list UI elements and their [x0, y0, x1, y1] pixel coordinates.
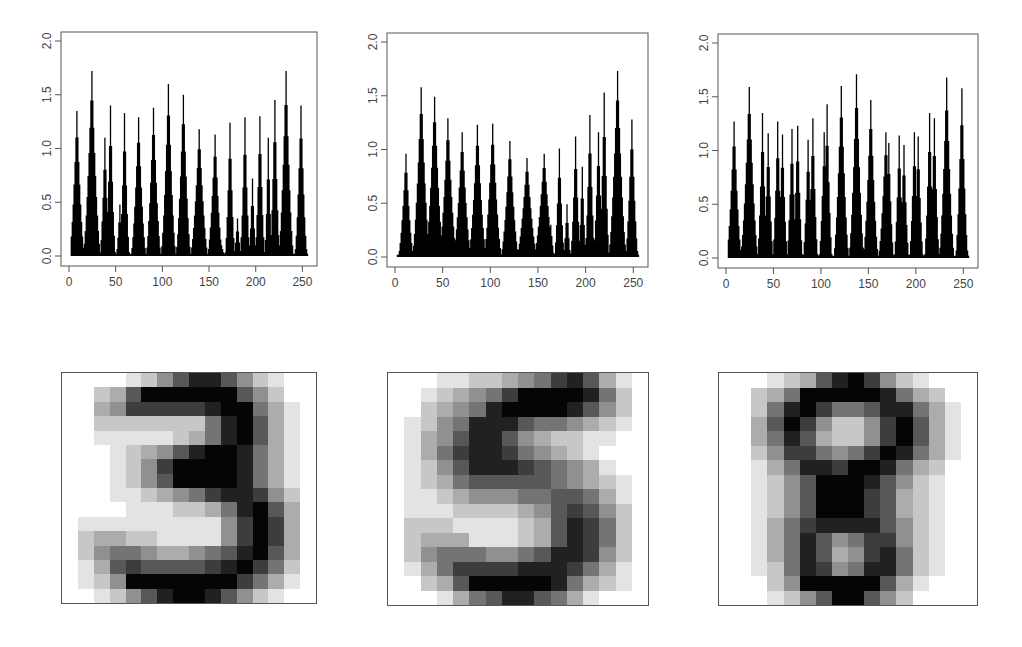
digit-pixel — [599, 576, 615, 591]
digit-pixel — [800, 562, 816, 577]
digit-pixel — [735, 388, 751, 403]
digit-pixel — [719, 489, 735, 504]
digit-pixel — [126, 502, 142, 516]
digit-pixel — [421, 431, 437, 446]
digit-pixel — [388, 489, 404, 504]
digit-pixel — [284, 488, 300, 502]
digit-pixel — [599, 504, 615, 519]
digit-pixel — [157, 589, 173, 603]
digit-pixel — [832, 475, 848, 490]
digit-pixel — [404, 446, 420, 461]
digit-pixel — [534, 576, 550, 591]
digit-pixel — [486, 576, 502, 591]
digit-pixel — [205, 416, 221, 430]
digit-pixel — [268, 445, 284, 459]
digit-pixel — [534, 402, 550, 417]
digit-pixel — [502, 547, 518, 562]
digit-pixel — [864, 446, 880, 461]
digit-pixel — [767, 373, 783, 388]
digit-pixel — [880, 402, 896, 417]
digit-pixel — [599, 547, 615, 562]
digit-pixel — [961, 533, 977, 548]
digit-pixel — [221, 517, 237, 531]
digit-pixel — [110, 373, 126, 387]
digit-pixel — [404, 576, 420, 591]
digit-pixel — [284, 589, 300, 603]
digit-pixel — [961, 489, 977, 504]
digit-pixel — [268, 373, 284, 387]
digit-pixel — [784, 489, 800, 504]
digit-pixel — [551, 460, 567, 475]
digit-pixel — [469, 504, 485, 519]
digit-pixel — [126, 373, 142, 387]
digit-pixel — [205, 402, 221, 416]
digit-pixel — [300, 416, 316, 430]
digit-pixel — [616, 417, 632, 432]
digit-pixel — [913, 489, 929, 504]
digit-pixel — [719, 402, 735, 417]
digit-pixel — [421, 504, 437, 519]
digit-pixel — [237, 560, 253, 574]
digit-pixel — [632, 504, 648, 519]
digit-pixel — [502, 562, 518, 577]
digit-pixel — [221, 488, 237, 502]
digit-pixel — [929, 388, 945, 403]
digit-pixel — [189, 560, 205, 574]
digit-pixel — [945, 576, 961, 591]
y-tick-label: 1.0 — [366, 141, 380, 158]
digit-pixel — [784, 417, 800, 432]
digit-pixel — [157, 574, 173, 588]
digit-pixel — [913, 562, 929, 577]
digit-pixel — [453, 373, 469, 388]
y-tick-label: 1.5 — [697, 88, 711, 105]
digit-pixel — [518, 562, 534, 577]
digit-pixel — [616, 591, 632, 606]
digit-pixel — [453, 533, 469, 548]
digit-pixel — [388, 518, 404, 533]
digit-pixel — [816, 417, 832, 432]
digit-pixel — [929, 518, 945, 533]
digit-pixel — [221, 387, 237, 401]
digit-pixel — [735, 547, 751, 562]
digit-pixel — [78, 459, 94, 473]
digit-pixel — [173, 402, 189, 416]
digit-pixel — [189, 474, 205, 488]
digit-pixel — [268, 502, 284, 516]
digit-pixel — [486, 402, 502, 417]
digit-pixel — [784, 591, 800, 606]
digit-pixel — [253, 373, 269, 387]
digit-pixel — [141, 574, 157, 588]
digit-pixel — [237, 517, 253, 531]
digit-pixel — [486, 518, 502, 533]
digit-pixel — [253, 502, 269, 516]
digit-pixel — [961, 475, 977, 490]
digit-pixel — [784, 460, 800, 475]
digit-pixel — [534, 591, 550, 606]
y-tick-label: 1.5 — [40, 86, 54, 103]
digit-pixel — [751, 402, 767, 417]
digit-pixel — [913, 504, 929, 519]
digit-pixel — [632, 547, 648, 562]
digit-pixel — [929, 373, 945, 388]
digit-pixel — [173, 531, 189, 545]
digit-pixel — [551, 388, 567, 403]
digit-pixel — [816, 518, 832, 533]
digit-pixel — [751, 475, 767, 490]
digit-pixel — [94, 459, 110, 473]
digit-pixel — [599, 431, 615, 446]
digit-pixel — [453, 576, 469, 591]
digit-pixel — [913, 460, 929, 475]
digit-pixel — [767, 489, 783, 504]
digit-pixel — [237, 589, 253, 603]
digit-pixel — [864, 489, 880, 504]
digit-pixel — [189, 517, 205, 531]
digit-pixel — [300, 373, 316, 387]
digit-pixel — [141, 387, 157, 401]
digit-pixel — [253, 488, 269, 502]
digit-pixel — [864, 417, 880, 432]
digit-pixel — [880, 373, 896, 388]
digit-pixel — [268, 402, 284, 416]
digit-pixel — [437, 460, 453, 475]
digit-pixel — [945, 562, 961, 577]
digit-pixel — [518, 417, 534, 432]
